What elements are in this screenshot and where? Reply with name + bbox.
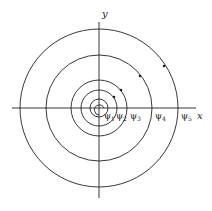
arrow-dot-psi2 [113,96,116,99]
psi-label-4: ψ4 [155,111,166,122]
x-axis-label: x [197,110,203,121]
arrow-dot-psi3 [120,89,123,92]
psi-label-3: ψ3 [130,111,141,122]
arrow-dot-psi4 [139,75,142,78]
arrow-dot-psi5 [163,65,166,68]
psi-label-2: ψ2 [116,111,127,122]
psi-label-5: ψ5 [181,111,192,122]
streamline-diagram: y x ψ1 ψ2 ψ3 ψ4 ψ5 [0,0,212,211]
psi-label-1: ψ1 [104,111,115,122]
y-axis-label: y [101,8,108,19]
